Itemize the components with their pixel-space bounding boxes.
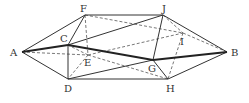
- label-B: B: [231, 47, 238, 58]
- label-H: H: [166, 83, 175, 94]
- edge-DG: [68, 60, 153, 79]
- edge-GB: [153, 52, 227, 60]
- label-C: C: [60, 33, 68, 44]
- edge-JB: [163, 15, 227, 52]
- label-I: I: [180, 36, 184, 47]
- bold-path-edges: [22, 45, 227, 60]
- edge-AE: [22, 52, 88, 55]
- edge-GJ: [153, 15, 163, 60]
- label-A: A: [9, 47, 18, 58]
- geometry-diagram: A B C D E F G H I J: [0, 0, 249, 103]
- edge-JI: [163, 15, 183, 33]
- label-J: J: [161, 3, 166, 14]
- label-F: F: [80, 3, 87, 14]
- edge-CG: [68, 45, 153, 60]
- edge-EH: [88, 55, 168, 79]
- edge-IB: [183, 33, 227, 52]
- label-D: D: [64, 83, 72, 94]
- label-E: E: [84, 57, 91, 68]
- label-G: G: [148, 63, 156, 74]
- edge-AD: [22, 52, 68, 79]
